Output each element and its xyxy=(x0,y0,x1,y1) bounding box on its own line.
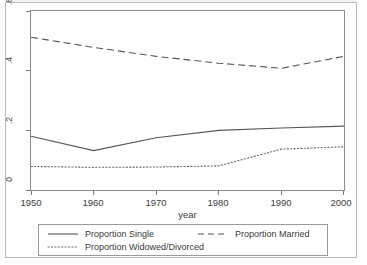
legend-label-proportion-single: Proportion Single xyxy=(85,229,154,239)
legend: Proportion Single Proportion Widowed/Div… xyxy=(38,224,328,256)
plot-area xyxy=(31,11,344,190)
x-tick-label-0: 1950 xyxy=(11,197,51,208)
x-tick-label-4: 1990 xyxy=(261,197,301,208)
series-proportion-widowed-divorced xyxy=(31,147,344,168)
x-tick-label-3: 1980 xyxy=(198,197,238,208)
x-axis-title: year xyxy=(30,209,345,220)
y-tick-label-2: .4 xyxy=(4,57,14,83)
series-canvas xyxy=(31,11,344,190)
series-proportion-single xyxy=(31,126,344,150)
x-tick-mark-0 xyxy=(31,191,32,195)
x-tick-label-5: 2000 xyxy=(321,197,361,208)
legend-key-dashed-icon xyxy=(197,230,229,238)
y-tick-label-3: .6 xyxy=(4,0,14,24)
legend-key-dotted-icon xyxy=(47,243,79,251)
x-tick-mark-1 xyxy=(93,191,94,195)
legend-item-proportion-single[interactable]: Proportion Single xyxy=(47,229,154,239)
legend-key-solid-icon xyxy=(47,230,79,238)
figure-canvas: 0 .2 .4 .6 1950 1960 1970 1980 199 xyxy=(0,0,367,265)
x-tick-label-1: 1960 xyxy=(73,197,113,208)
x-tick-mark-2 xyxy=(156,191,157,195)
x-tick-mark-3 xyxy=(218,191,219,195)
legend-item-proportion-married[interactable]: Proportion Married xyxy=(197,229,310,239)
x-tick-label-2: 1970 xyxy=(136,197,176,208)
legend-item-proportion-widowed-divorced[interactable]: Proportion Widowed/Divorced xyxy=(47,242,204,252)
series-proportion-married xyxy=(31,37,344,68)
x-tick-mark-4 xyxy=(281,191,282,195)
y-tick-label-1: .2 xyxy=(4,117,14,143)
legend-label-proportion-widowed-divorced: Proportion Widowed/Divorced xyxy=(85,242,204,252)
legend-label-proportion-married: Proportion Married xyxy=(235,229,310,239)
x-tick-mark-5 xyxy=(343,191,344,195)
